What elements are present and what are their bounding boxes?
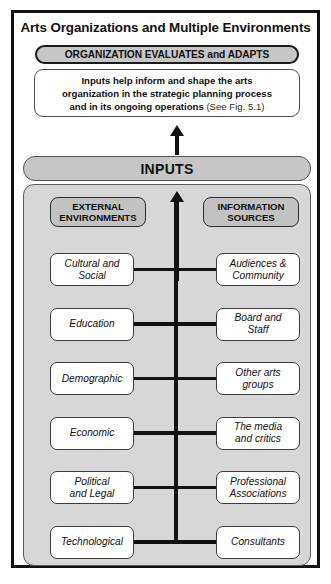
- connector-right-row-3: [176, 377, 218, 380]
- connector-right-row-4: [176, 431, 218, 434]
- item-label-line-1: The media: [234, 421, 282, 433]
- item-label-line-1: Board and: [234, 312, 281, 324]
- column-header-information-sources: INFORMATION SOURCES: [203, 197, 299, 227]
- connector-right-row-1: [176, 268, 218, 271]
- connector-left-row-2: [132, 322, 178, 325]
- description-line-2: organization in the strategic planning p…: [62, 87, 272, 100]
- item-label-line-1: Technological: [61, 536, 123, 548]
- item-label-line-1: Audiences &: [229, 258, 286, 270]
- item-label-line-2: and critics: [235, 433, 281, 445]
- connector-right-row-5: [176, 486, 218, 489]
- item-label-line-1: Political: [74, 476, 109, 488]
- item-label-line-1: Consultants: [231, 536, 285, 548]
- information-source-item[interactable]: Consultants: [216, 526, 300, 559]
- information-source-item[interactable]: Audiences &Community: [216, 253, 300, 286]
- connector-left-row-3: [132, 377, 178, 380]
- external-environment-item[interactable]: Cultural andSocial: [50, 253, 134, 286]
- description-line-1: Inputs help inform and shape the arts: [81, 74, 252, 87]
- item-label-line-2: Social: [78, 270, 106, 282]
- item-label-line-2: Community: [232, 270, 284, 282]
- inputs-bar: INPUTS: [23, 156, 311, 181]
- figure-reference: (See Fig. 5.1): [206, 101, 264, 112]
- item-label-line-1: Economic: [70, 427, 115, 439]
- inputs-description-box: Inputs help inform and shape the arts or…: [34, 69, 300, 117]
- figure-container: Arts Organizations and Multiple Environm…: [11, 10, 320, 568]
- external-environment-item[interactable]: Demographic: [50, 362, 134, 395]
- connector-left-row-5: [132, 486, 178, 489]
- information-source-item[interactable]: Board andStaff: [216, 308, 300, 341]
- external-environment-item[interactable]: Economic: [50, 417, 134, 450]
- item-label-line-2: groups: [242, 379, 273, 391]
- item-label-line-1: Other arts: [235, 367, 280, 379]
- item-label-line-1: Education: [69, 318, 114, 330]
- information-source-item[interactable]: Other artsgroups: [216, 362, 300, 395]
- connector-left-row-1: [132, 268, 178, 271]
- organization-evaluates-banner: ORGANIZATION EVALUATES and ADAPTS: [35, 45, 299, 64]
- information-source-item[interactable]: The mediaand critics: [216, 417, 300, 450]
- information-source-item[interactable]: ProfessionalAssociations: [216, 471, 300, 504]
- external-environment-item[interactable]: Education: [50, 308, 134, 341]
- connector-right-row-6: [176, 540, 218, 543]
- external-environment-item[interactable]: Politicaland Legal: [50, 471, 134, 504]
- external-header-line-2: ENVIRONMENTS: [59, 212, 136, 224]
- connector-left-row-6: [132, 540, 178, 543]
- description-line-3: and in its ongoing operations (See Fig. …: [69, 100, 264, 113]
- central-spine-line: [174, 199, 178, 544]
- arrow-up-to-description-icon: [170, 125, 184, 155]
- description-line-3-bold: and in its ongoing operations: [69, 101, 203, 112]
- item-label-line-1: Demographic: [62, 373, 123, 385]
- external-environment-item[interactable]: Technological: [50, 526, 134, 559]
- item-label-line-1: Professional: [230, 476, 286, 488]
- organization-banner-label: ORGANIZATION EVALUATES and ADAPTS: [65, 49, 270, 60]
- inputs-bar-label: INPUTS: [140, 161, 193, 177]
- information-header-line-2: SOURCES: [227, 212, 274, 224]
- column-header-external-environments: EXTERNAL ENVIRONMENTS: [50, 197, 146, 227]
- item-label-line-2: Staff: [248, 324, 269, 336]
- external-header-line-1: EXTERNAL: [72, 201, 124, 213]
- information-header-line-1: INFORMATION: [218, 201, 285, 213]
- connector-right-row-2: [176, 322, 218, 325]
- item-label-line-1: Cultural and: [65, 258, 120, 270]
- item-label-line-2: and Legal: [70, 488, 115, 500]
- page-title: Arts Organizations and Multiple Environm…: [14, 20, 317, 35]
- item-label-line-2: Associations: [229, 488, 286, 500]
- connector-left-row-4: [132, 431, 178, 434]
